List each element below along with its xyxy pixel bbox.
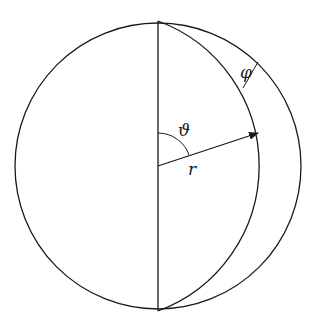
radius-label: r — [188, 159, 197, 179]
radius-arrow — [158, 133, 258, 166]
theta-label: ϑ — [178, 120, 190, 140]
phi-label: φ — [240, 62, 252, 82]
sphere-angle-diagram: ϑ r φ — [0, 0, 316, 319]
